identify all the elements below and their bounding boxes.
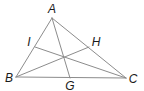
label-a: A	[47, 2, 56, 16]
side-bc	[16, 77, 126, 78]
triangle-diagram: A B C I H G	[0, 0, 144, 91]
cevian-ci	[35, 47, 126, 78]
cevian-ag	[52, 18, 70, 78]
label-c: C	[129, 72, 138, 86]
side-ca	[52, 18, 126, 78]
label-g: G	[65, 79, 74, 91]
side-ab	[16, 18, 52, 77]
label-i: I	[27, 35, 31, 49]
label-b: B	[5, 71, 13, 85]
segments	[16, 18, 126, 78]
label-h: H	[92, 35, 101, 49]
